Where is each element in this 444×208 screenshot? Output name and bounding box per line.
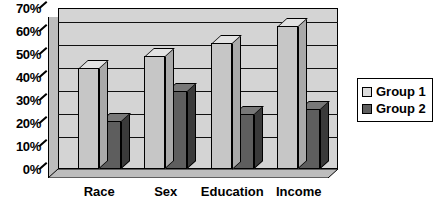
bar-side-face <box>320 101 329 169</box>
y-axis-tick-label: 50% <box>16 47 41 62</box>
x-axis-label-education: Education <box>201 184 264 199</box>
legend-item-group-1: Group 1 <box>362 83 426 100</box>
x-axis-label-sex: Sex <box>154 184 177 199</box>
chart-legend: Group 1 Group 2 <box>357 78 433 122</box>
chart-container: 0%10%20%30%40%50%60%70% RaceSexEducation… <box>0 0 444 208</box>
bar-side-face <box>165 48 174 169</box>
legend-swatch-group-1 <box>362 87 372 97</box>
bar-front-face <box>144 56 165 169</box>
y-axis-tick-label: 60% <box>16 24 41 39</box>
legend-swatch-group-2 <box>362 104 372 114</box>
legend-label-group-2: Group 2 <box>376 101 426 116</box>
y-axis-tick-label: 10% <box>16 139 41 154</box>
y-axis: 0%10%20%30%40%50%60%70% <box>0 0 46 208</box>
bar-side-face <box>232 34 241 169</box>
legend-item-group-2: Group 2 <box>362 100 426 117</box>
bar-race-group-1 <box>78 68 99 169</box>
bar-side-face <box>298 18 307 169</box>
y-axis-tick-label: 70% <box>16 1 41 16</box>
bar-side-face <box>99 60 108 169</box>
bar-side-face <box>187 83 196 169</box>
bar-side-face <box>121 113 130 169</box>
bar-front-face <box>211 43 232 170</box>
bar-front-face <box>78 68 99 169</box>
plot-area <box>48 8 338 178</box>
bar-sex-group-1 <box>144 56 165 169</box>
bar-front-face <box>277 26 298 169</box>
bar-education-group-1 <box>211 43 232 170</box>
x-axis-labels: RaceSexEducationIncome <box>48 182 338 206</box>
bar-income-group-1 <box>277 26 298 169</box>
x-axis-label-income: Income <box>276 184 322 199</box>
x-axis-label-race: Race <box>84 184 115 199</box>
y-axis-tick-label: 30% <box>16 93 41 108</box>
legend-label-group-1: Group 1 <box>376 84 426 99</box>
y-axis-tick-label: 20% <box>16 116 41 131</box>
y-axis-tick-label: 40% <box>16 70 41 85</box>
bar-side-face <box>254 106 263 169</box>
